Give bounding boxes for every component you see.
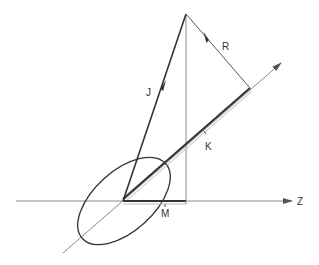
label-K: K xyxy=(205,141,212,152)
label-J: J xyxy=(146,87,151,98)
label-M: M xyxy=(161,208,169,219)
label-Z: Z xyxy=(297,196,303,207)
label-R: R xyxy=(222,41,229,52)
vector-R xyxy=(186,14,250,88)
projection-M xyxy=(123,201,186,207)
symmetry-axis xyxy=(63,63,281,253)
vector-coupling-diagram: J R K M Z xyxy=(0,0,319,265)
